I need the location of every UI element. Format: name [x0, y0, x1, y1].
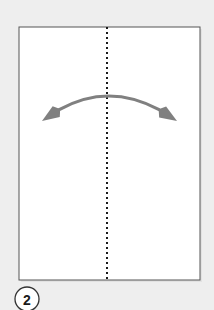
- step-badge-label: 2: [23, 292, 31, 308]
- paper-sheet: [19, 27, 200, 280]
- origami-step-diagram: 2: [0, 0, 214, 310]
- diagram-stage: 2: [0, 0, 214, 310]
- step-number-badge: 2: [15, 287, 39, 310]
